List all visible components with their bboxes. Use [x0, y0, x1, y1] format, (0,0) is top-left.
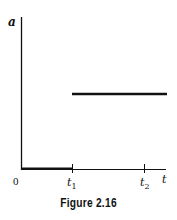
y-axis-label: a [8, 15, 16, 29]
figure-2-16: a 0 t1 t2 t Figure 2.16 [0, 0, 177, 220]
origin-label: 0 [13, 175, 19, 187]
tick-label-t2: t2 [140, 176, 150, 191]
tick-label-t1: t1 [67, 176, 77, 191]
figure-caption: Figure 2.16 [13, 196, 163, 210]
x-axis-label: t [162, 173, 167, 186]
step-function-diagram: a 0 t1 t2 t [0, 0, 177, 220]
